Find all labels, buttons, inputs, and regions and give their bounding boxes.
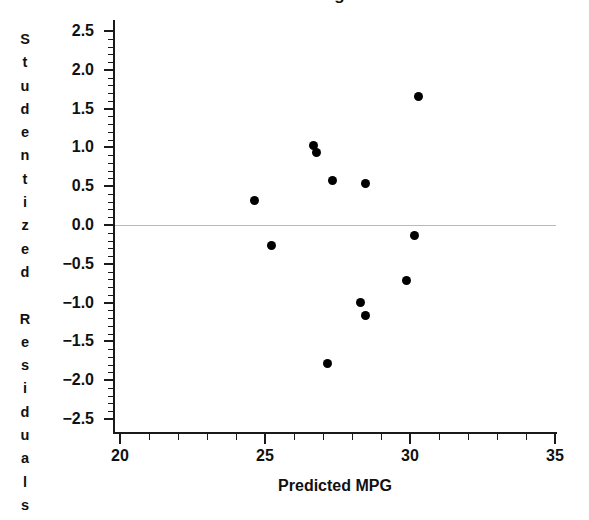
y-tick-minor: [108, 202, 113, 203]
y-tick-minor: [108, 62, 113, 63]
x-tick-minor: [236, 434, 237, 440]
y-axis-title-char: s: [14, 494, 36, 517]
y-tick-minor: [108, 132, 113, 133]
x-tick-major: [554, 434, 556, 444]
y-tick-minor: [108, 403, 113, 404]
y-tick-minor: [108, 334, 113, 335]
y-tick-major: [104, 340, 113, 342]
x-tick-minor: [207, 434, 208, 440]
y-tick-minor: [108, 217, 113, 218]
y-tick-major: [104, 30, 113, 32]
y-tick-major: [104, 379, 113, 381]
y-axis-title-char: d: [14, 401, 36, 424]
y-tick-minor: [108, 365, 113, 366]
y-tick-minor: [108, 47, 113, 48]
y-tick-minor: [108, 256, 113, 257]
data-point: [250, 196, 259, 205]
data-point: [361, 311, 370, 320]
y-tick-major: [104, 418, 113, 420]
data-point: [323, 359, 332, 368]
y-axis-title-char: u: [14, 424, 36, 447]
y-axis-title-char: d: [14, 261, 36, 284]
y-axis-line: [113, 20, 115, 434]
x-tick-minor: [497, 434, 498, 440]
x-tick-minor: [468, 434, 469, 440]
x-tick-label: 35: [525, 447, 585, 465]
y-tick-minor: [108, 178, 113, 179]
x-tick-major: [264, 434, 266, 444]
data-point: [328, 176, 337, 185]
y-axis-title-char: i: [14, 191, 36, 214]
y-axis-title-char: n: [14, 144, 36, 167]
y-tick-minor: [108, 78, 113, 79]
y-tick-minor: [108, 272, 113, 273]
y-tick-minor: [108, 318, 113, 319]
y-tick-label: 0.5: [34, 177, 94, 195]
data-point: [410, 231, 419, 240]
y-tick-minor: [108, 209, 113, 210]
y-axis-title-char: a: [14, 447, 36, 470]
y-tick-label: 1.5: [34, 100, 94, 118]
data-point: [361, 179, 370, 188]
y-tick-major: [104, 108, 113, 110]
x-tick-minor: [294, 434, 295, 440]
y-axis-title-char: R: [14, 308, 36, 331]
y-axis-title-char: s: [14, 354, 36, 377]
y-tick-label: −1.5: [34, 332, 94, 350]
y-axis-title-char: e: [14, 238, 36, 261]
data-point: [414, 92, 423, 101]
y-tick-minor: [108, 233, 113, 234]
y-tick-minor: [108, 279, 113, 280]
x-axis-line: [113, 432, 557, 434]
y-tick-major: [104, 263, 113, 265]
x-tick-minor: [352, 434, 353, 440]
x-axis-title: Predicted MPG: [113, 477, 557, 495]
x-tick-minor: [149, 434, 150, 440]
x-tick-minor: [439, 434, 440, 440]
y-tick-minor: [108, 310, 113, 311]
y-tick-minor: [108, 124, 113, 125]
y-tick-minor: [108, 171, 113, 172]
y-axis-title-char: e: [14, 331, 36, 354]
y-tick-label: 2.0: [34, 61, 94, 79]
y-axis-title-char: l: [14, 471, 36, 494]
y-tick-label: −2.0: [34, 371, 94, 389]
y-tick-major: [104, 69, 113, 71]
data-point: [267, 241, 276, 250]
y-tick-minor: [108, 326, 113, 327]
x-tick-minor: [526, 434, 527, 440]
y-tick-minor: [108, 396, 113, 397]
y-axis-title-char: u: [14, 75, 36, 98]
y-tick-minor: [108, 248, 113, 249]
y-tick-minor: [108, 39, 113, 40]
x-tick-minor: [323, 434, 324, 440]
x-tick-label: 20: [90, 447, 150, 465]
y-tick-minor: [108, 101, 113, 102]
zero-reference-line: [115, 225, 556, 226]
y-tick-minor: [108, 372, 113, 373]
y-tick-major: [104, 185, 113, 187]
y-tick-minor: [108, 163, 113, 164]
y-tick-minor: [108, 116, 113, 117]
y-tick-minor: [108, 411, 113, 412]
y-tick-major: [104, 302, 113, 304]
y-tick-minor: [108, 194, 113, 195]
y-tick-minor: [108, 357, 113, 358]
y-tick-minor: [108, 287, 113, 288]
y-tick-minor: [108, 140, 113, 141]
y-tick-label: 0.0: [34, 216, 94, 234]
data-point: [312, 148, 321, 157]
y-tick-label: 1.0: [34, 138, 94, 156]
y-tick-label: −2.5: [34, 410, 94, 428]
y-tick-minor: [108, 155, 113, 156]
y-axis-title-char: t: [14, 51, 36, 74]
y-axis-title-char: d: [14, 98, 36, 121]
y-tick-minor: [108, 388, 113, 389]
y-tick-minor: [108, 241, 113, 242]
y-axis-title-char: S: [14, 28, 36, 51]
y-axis-title-char: t: [14, 168, 36, 191]
y-tick-major: [104, 146, 113, 148]
y-tick-label: −0.5: [34, 255, 94, 273]
x-tick-minor: [178, 434, 179, 440]
y-tick-minor: [108, 54, 113, 55]
